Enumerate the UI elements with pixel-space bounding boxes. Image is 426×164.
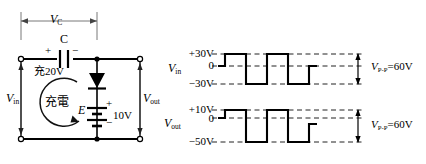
terminal-out-top <box>137 56 142 61</box>
vin-level-high-label: +30V <box>186 48 214 59</box>
vin-arrow <box>18 63 23 135</box>
charging-loop-text: 充電 <box>45 96 69 108</box>
vin-waveform-label: Vin <box>168 62 181 75</box>
vc-label: VC <box>50 13 62 26</box>
vout-waveform-label: Vout <box>164 117 181 130</box>
vin-pp-arrow <box>355 53 360 85</box>
capacitor-charge-text: 充20V <box>34 66 64 77</box>
vout-level-low-label: −50V <box>182 136 214 147</box>
vin-level-zero-label: 0 <box>186 60 214 71</box>
vout-level-zero-label: 0 <box>186 113 214 124</box>
vin-trace <box>218 54 317 84</box>
capacitor-plus-sign: + <box>45 45 51 56</box>
source-value: 10V <box>113 110 132 121</box>
circuit-diagram <box>0 0 200 164</box>
vin-circuit-label: Vin <box>6 92 19 105</box>
source-plus-sign: + <box>106 98 112 109</box>
vin-pp-label: VP-P=60V <box>371 61 413 73</box>
vout-trace <box>218 110 317 142</box>
vout-pp-label: VP-P=60V <box>371 119 413 131</box>
vin-level-low-label: −30V <box>182 78 214 89</box>
node-top <box>94 56 99 61</box>
diode-symbol <box>88 73 106 89</box>
terminal-in-top <box>18 56 23 61</box>
node-bottom <box>94 136 99 141</box>
terminal-in-bottom <box>18 136 23 141</box>
source-label: E <box>78 104 85 116</box>
terminal-out-bottom <box>137 136 142 141</box>
capacitor-label: C <box>60 33 68 45</box>
vout-pp-arrow <box>355 109 360 143</box>
vout-arrow <box>137 63 142 135</box>
vout-circuit-label: Vout <box>143 92 160 105</box>
source-minus-sign: − <box>106 117 112 128</box>
figure-root: VC C + − 充20V 充電 E + − 10V Vin Vout Vin … <box>0 0 426 164</box>
capacitor-minus-sign: − <box>72 45 78 56</box>
